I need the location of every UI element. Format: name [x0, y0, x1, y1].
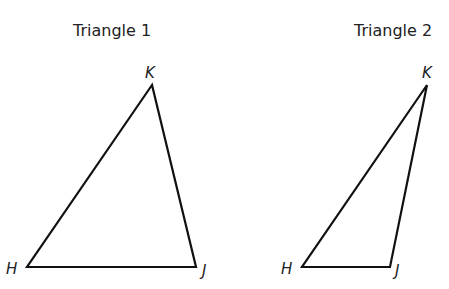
triangles-diagram — [0, 0, 449, 289]
triangle-1-shape — [27, 85, 196, 267]
triangle-1-vertex-j-label: J — [202, 264, 206, 279]
triangle-1-vertex-k-label: K — [145, 66, 155, 81]
triangle-2-vertex-j-label: J — [395, 264, 399, 279]
triangle-2-vertex-h-label: H — [281, 262, 292, 277]
triangle-2-vertex-k-label: K — [422, 66, 432, 81]
triangle-1-vertex-h-label: H — [6, 262, 17, 277]
triangle-2-shape — [302, 85, 427, 267]
